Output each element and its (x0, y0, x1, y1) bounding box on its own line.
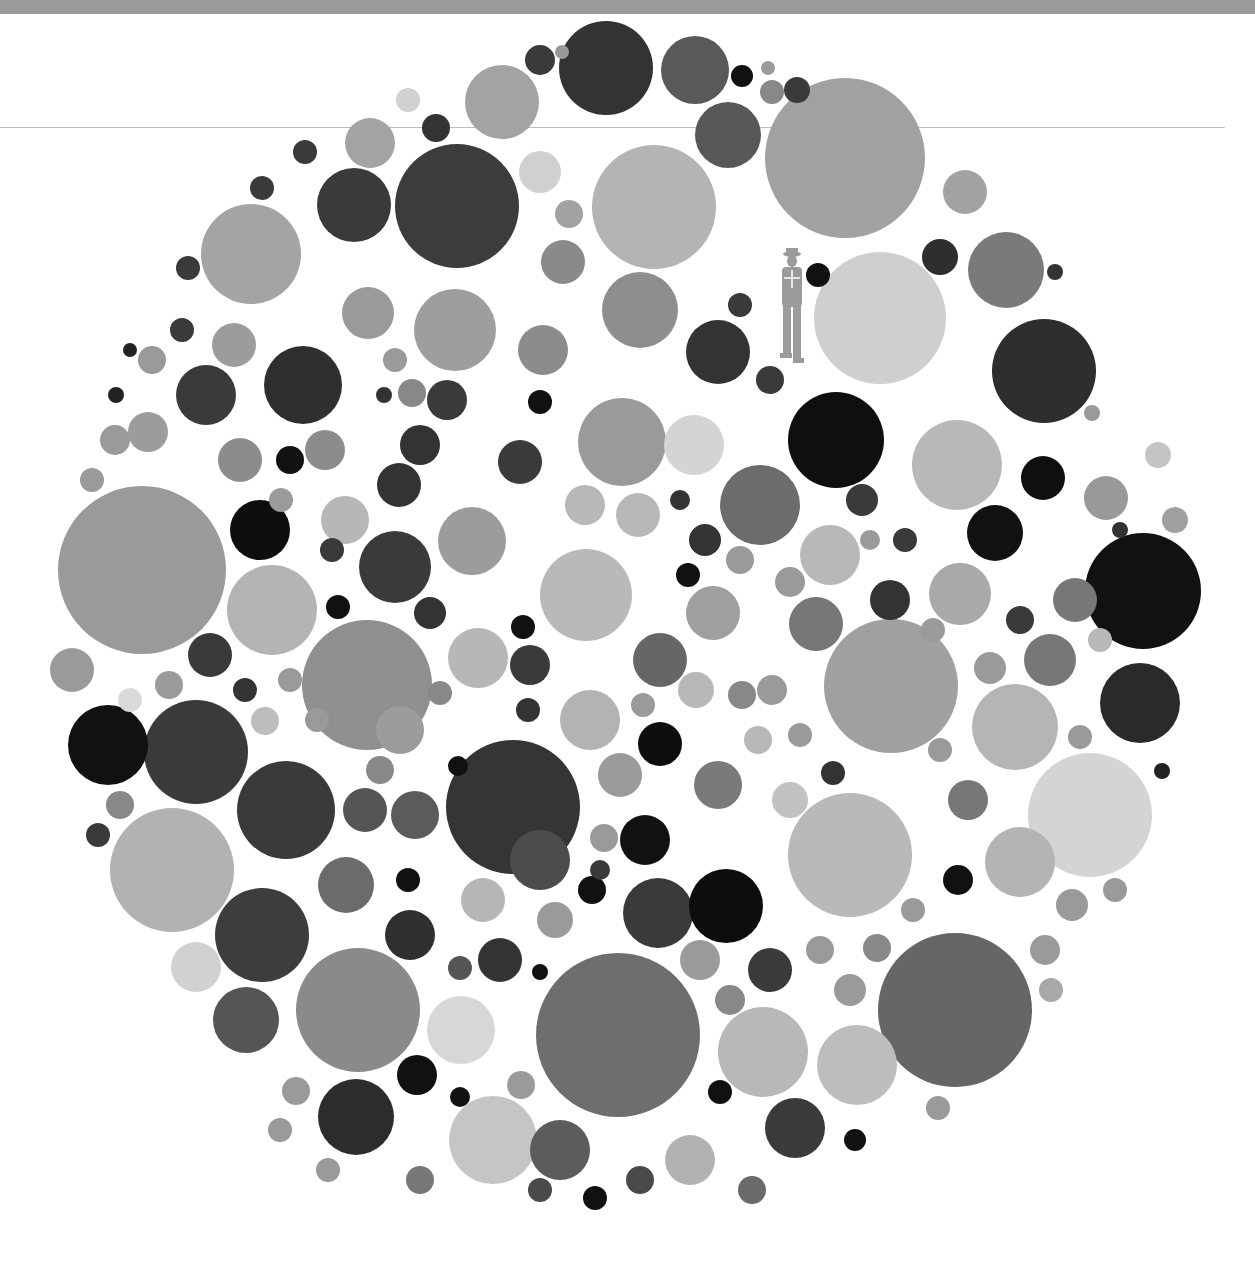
bubble (800, 525, 860, 585)
bubble (345, 118, 395, 168)
bubble (50, 648, 94, 692)
bubble (155, 671, 183, 699)
bubble (100, 425, 130, 455)
bubble (110, 808, 234, 932)
bubble (789, 597, 843, 651)
bubble (305, 708, 329, 732)
bubble (748, 948, 792, 992)
bubble (342, 287, 394, 339)
bubble (264, 346, 342, 424)
bubble (343, 788, 387, 832)
bubble (761, 61, 775, 75)
bubble (406, 1166, 434, 1194)
bubble (728, 293, 752, 317)
bubble (138, 346, 166, 374)
bubble (511, 615, 535, 639)
bubble (326, 595, 350, 619)
bubble (188, 633, 232, 677)
bubble (528, 1178, 552, 1202)
bubble (694, 761, 742, 809)
bubble (728, 681, 756, 709)
bubble (756, 366, 784, 394)
bubble (821, 761, 845, 785)
bubble (726, 546, 754, 574)
bubble (676, 563, 700, 587)
bubble (870, 580, 910, 620)
bubble (928, 738, 952, 762)
bubble (598, 753, 642, 797)
bubble (507, 1071, 535, 1099)
bubble (170, 318, 194, 342)
bubble (414, 597, 446, 629)
bubble (1084, 476, 1128, 520)
bubble (316, 1158, 340, 1182)
bubble (400, 425, 440, 465)
bubble (498, 440, 542, 484)
bubble (366, 756, 394, 784)
bubble (565, 485, 605, 525)
bubble (58, 486, 226, 654)
bubble (620, 815, 670, 865)
bubble (461, 878, 505, 922)
bubble (992, 319, 1096, 423)
bubble (788, 793, 912, 917)
bubble (528, 390, 552, 414)
bubble (278, 668, 302, 692)
bubble (738, 1176, 766, 1204)
bubble (269, 488, 293, 512)
bubble (680, 940, 720, 980)
bubble (784, 77, 810, 103)
bubble (395, 144, 519, 268)
bubble (397, 1055, 437, 1095)
bubble (1084, 405, 1100, 421)
bubble (788, 392, 884, 488)
bubble (215, 888, 309, 982)
bubble (844, 1129, 866, 1151)
bubble (1112, 522, 1128, 538)
person-silhouette-icon (780, 248, 804, 363)
bubble (414, 289, 496, 371)
bubble (817, 1025, 897, 1105)
bubble (926, 1096, 950, 1120)
bubble (708, 1080, 732, 1104)
bubble (250, 176, 274, 200)
bubble (626, 1166, 654, 1194)
bubble (1056, 889, 1088, 921)
bubble (536, 953, 700, 1117)
bubble (276, 446, 304, 474)
bubble (376, 706, 424, 754)
bubble (623, 878, 693, 948)
bubble (1162, 507, 1188, 533)
bubble (318, 1079, 394, 1155)
bubble (108, 387, 124, 403)
bubble (695, 102, 761, 168)
bubble (448, 756, 468, 776)
bubble (80, 468, 104, 492)
bubble (1024, 634, 1076, 686)
bubble (293, 140, 317, 164)
bubble (318, 857, 374, 913)
bubble (398, 379, 426, 407)
bubble (901, 898, 925, 922)
bubble (118, 688, 142, 712)
bubble (633, 633, 687, 687)
bubble (860, 530, 880, 550)
bubble (516, 698, 540, 722)
bubble (555, 200, 583, 228)
bubble (510, 830, 570, 890)
bubble (686, 320, 750, 384)
bubble (602, 272, 678, 348)
bubble (689, 524, 721, 556)
bubble (376, 387, 392, 403)
bubble (218, 438, 262, 482)
bubble (317, 168, 391, 242)
bubble (123, 343, 137, 357)
bubble (359, 531, 431, 603)
bubble (772, 782, 808, 818)
bubble (631, 693, 655, 717)
bubble (213, 987, 279, 1053)
bubble (731, 65, 753, 87)
bubble (422, 114, 450, 142)
bubble (510, 645, 550, 685)
bubble (1103, 878, 1127, 902)
